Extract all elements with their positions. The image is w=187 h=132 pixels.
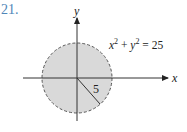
radius-label: 5 xyxy=(93,82,99,96)
eq-rhs: = 25 xyxy=(139,39,163,51)
circle-equation: x2 + y2 = 25 xyxy=(108,37,163,52)
x-axis-label: x xyxy=(171,71,178,85)
circle-diagram: x y 5 x2 + y2 = 25 xyxy=(0,0,187,132)
eq-plus: + xyxy=(118,39,130,51)
y-axis-label: y xyxy=(73,4,80,18)
